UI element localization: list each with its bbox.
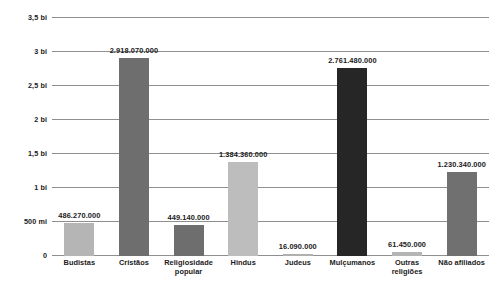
- y-axis-tick-label: 2,5 bi: [28, 81, 47, 90]
- category-axis-label: Religiosidade popular: [161, 258, 216, 277]
- bar-value-label: 2.761.480.000: [328, 56, 377, 65]
- y-axis-tick-label: 500 mi: [24, 217, 47, 226]
- bar: 2.918.070.000: [119, 58, 149, 256]
- bar: 61.450.000: [392, 252, 422, 256]
- category-axis-label: Budistas: [52, 258, 107, 277]
- bar-slot: 16.090.000: [271, 18, 326, 256]
- bar-slot: 61.450.000: [380, 18, 435, 256]
- bar-value-label: 449.140.000: [167, 213, 209, 222]
- bar: 1.384.360.000: [228, 162, 258, 256]
- bar-slot: 449.140.000: [161, 18, 216, 256]
- bar-value-label: 1.384.360.000: [219, 150, 268, 159]
- bar-slot: 486.270.000: [52, 18, 107, 256]
- category-axis: BudistasCristãosReligiosidade popularHin…: [52, 258, 489, 277]
- y-axis-tick-label: 0: [43, 251, 47, 260]
- bar-slot: 1.230.340.000: [434, 18, 489, 256]
- category-axis-label: Outras religiões: [380, 258, 435, 277]
- y-axis-tick-label: 3 bi: [34, 47, 47, 56]
- bar-value-label: 61.450.000: [388, 240, 426, 249]
- bar: 1.230.340.000: [447, 172, 477, 256]
- bar-value-label: 16.090.000: [279, 242, 317, 251]
- bar-group: 486.270.0002.918.070.000449.140.0001.384…: [52, 18, 489, 256]
- category-axis-label: Não afiliados: [434, 258, 489, 277]
- bar-value-label: 1.230.340.000: [437, 160, 486, 169]
- category-axis-label: Mulçumanos: [325, 258, 380, 277]
- y-axis-tick-label: 1,5 bi: [28, 149, 47, 158]
- y-axis-tick-label: 3,5 bi: [28, 13, 47, 22]
- bar-chart: 0500 mi1 bi1,5 bi2 bi2,5 bi3 bi3,5 bi 48…: [0, 0, 497, 292]
- category-axis-label: Cristãos: [107, 258, 162, 277]
- bar: 16.090.000: [283, 254, 313, 256]
- bar-slot: 2.761.480.000: [325, 18, 380, 256]
- y-axis-tick-label: 2 bi: [34, 115, 47, 124]
- bar: 449.140.000: [174, 225, 204, 256]
- y-axis-tick-label: 1 bi: [34, 183, 47, 192]
- bar-value-label: 2.918.070.000: [110, 46, 159, 55]
- bar: 486.270.000: [64, 223, 94, 256]
- bar-value-label: 486.270.000: [58, 211, 100, 220]
- plot-area: 0500 mi1 bi1,5 bi2 bi2,5 bi3 bi3,5 bi 48…: [52, 18, 489, 256]
- bar-slot: 1.384.360.000: [216, 18, 271, 256]
- bar-slot: 2.918.070.000: [107, 18, 162, 256]
- category-axis-label: Hindus: [216, 258, 271, 277]
- category-axis-label: Judeus: [271, 258, 326, 277]
- bar: 2.761.480.000: [337, 68, 367, 256]
